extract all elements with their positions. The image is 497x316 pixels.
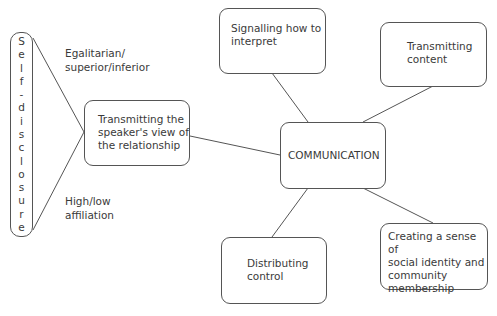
node-transmitting-content-label: Transmitting content (407, 40, 472, 66)
node-communication-label: COMMUNICATION (288, 149, 380, 162)
self-disclosure-letter: e (18, 222, 24, 233)
node-distributing: Distributing control (221, 237, 327, 304)
edge-relationship-communication (190, 136, 280, 155)
self-disclosure-letter: e (18, 49, 24, 60)
node-transmitting-content: Transmitting content (380, 22, 487, 87)
self-disclosure-letter: i (20, 116, 23, 127)
self-disclosure-letter: r (19, 209, 23, 220)
affiliation-annotation: High/low affiliation (65, 194, 114, 222)
self-disclosure-letter: S (18, 36, 25, 47)
edge-content-communication (363, 86, 433, 122)
node-distributing-label: Distributing control (247, 257, 309, 283)
self-disclosure-letter: u (18, 195, 25, 206)
egalitarian-annotation: Egalitarian/ superior/inferior (65, 46, 149, 74)
node-signalling: Signalling how to interpret (219, 8, 326, 74)
edge-distributing-communication (272, 188, 308, 237)
self-disclosure-letter: c (19, 142, 25, 153)
self-disclosure-letter: l (20, 63, 23, 74)
self-disclosure-letter: o (18, 169, 24, 180)
node-relationship: Transmitting the speaker's view of the r… (84, 100, 190, 166)
self-disclosure-letter: f (20, 76, 24, 87)
self-disclosure-box: S e l f - d i s c l o s u r e (10, 32, 33, 237)
self-disclosure-letter: - (20, 89, 24, 100)
self-disclosure-letter: s (19, 129, 24, 140)
self-disclosure-letter: d (18, 102, 25, 113)
node-identity-label: Creating a sense of social identity and … (388, 230, 487, 295)
self-disclosure-letter: s (19, 182, 24, 193)
node-signalling-label: Signalling how to interpret (231, 22, 321, 48)
self-disclosure-letter: l (20, 156, 23, 167)
edge-signalling-communication (272, 73, 308, 122)
node-communication: COMMUNICATION (280, 122, 386, 189)
node-relationship-label: Transmitting the speaker's view of the r… (98, 113, 189, 152)
edge-identity-communication (363, 188, 433, 223)
node-identity: Creating a sense of social identity and … (380, 223, 488, 290)
